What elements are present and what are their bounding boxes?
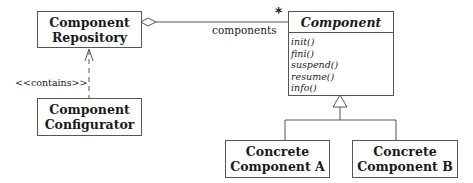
stereotype-label: <<contains>> — [15, 77, 88, 88]
class-component-repository[interactable]: Component Repository — [37, 11, 142, 48]
class-name-line2: Configurator — [45, 117, 135, 132]
operation-fini: fini() — [291, 48, 393, 60]
operation-init: init() — [291, 36, 393, 48]
class-concrete-component-b[interactable]: Concrete Component B — [352, 140, 458, 178]
class-name: Component — [289, 12, 393, 33]
role-label: components — [212, 24, 277, 36]
uml-class-diagram: Component Repository Component Configura… — [0, 0, 473, 183]
operation-resume: resume() — [291, 71, 393, 83]
class-name-line2: Repository — [52, 30, 127, 45]
multiplicity-label: * — [275, 4, 282, 20]
operation-suspend: suspend() — [291, 59, 393, 71]
class-component[interactable]: Component init() fini() suspend() resume… — [288, 11, 394, 96]
operations-compartment: init() fini() suspend() resume() info() — [289, 33, 393, 94]
class-name-line1: Concrete — [246, 144, 309, 159]
class-component-configurator[interactable]: Component Configurator — [37, 98, 142, 136]
aggregation-diamond-icon — [141, 18, 156, 26]
class-name-line2: Component B — [357, 159, 452, 174]
class-name-line1: Component — [49, 15, 130, 30]
class-name-line2: Component A — [230, 159, 325, 174]
generalization-triangle-icon — [333, 95, 347, 107]
class-concrete-component-a[interactable]: Concrete Component A — [225, 140, 330, 178]
class-name-line1: Component — [49, 102, 130, 117]
class-name-line1: Concrete — [373, 144, 436, 159]
operation-info: info() — [291, 82, 393, 94]
